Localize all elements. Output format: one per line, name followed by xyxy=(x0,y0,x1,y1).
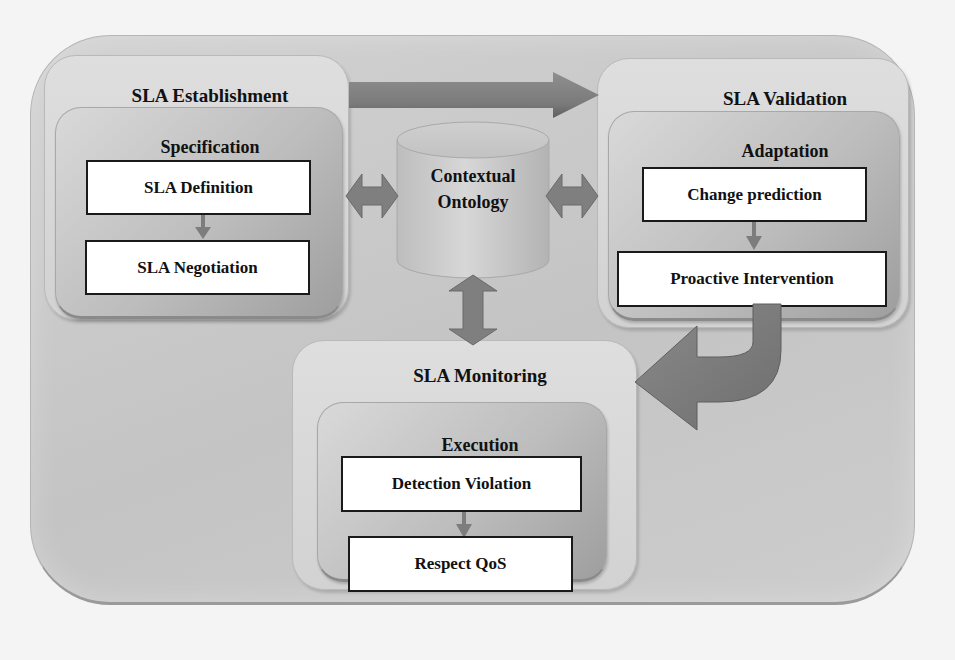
step-proactive-intervention: Proactive Intervention xyxy=(617,251,887,307)
bidirectional-arrow-ontology-validation xyxy=(546,172,598,220)
step-sla-negotiation: SLA Negotiation xyxy=(85,240,310,295)
bidirectional-arrow-ontology-establishment xyxy=(346,172,398,220)
cylinder-label-line1: Contextual xyxy=(395,163,551,189)
cylinder-label-line2: Ontology xyxy=(395,189,551,215)
arrow-establishment-to-validation xyxy=(349,70,599,120)
stage-title-monitoring: SLA Monitoring xyxy=(380,365,580,387)
stage-title-establishment: SLA Establishment xyxy=(100,85,320,107)
curved-arrow-validation-to-monitoring xyxy=(635,330,805,435)
step-sla-definition: SLA Definition xyxy=(86,160,311,215)
phase-title-execution: Execution xyxy=(410,435,550,456)
phase-title-specification: Specification xyxy=(140,137,280,158)
cylinder-label: Contextual Ontology xyxy=(395,163,551,215)
step-respect-qos: Respect QoS xyxy=(348,536,573,592)
step-detection-violation: Detection Violation xyxy=(341,456,582,512)
arrow-definition-to-negotiation xyxy=(192,215,214,241)
bidirectional-arrow-ontology-monitoring xyxy=(447,275,499,345)
stage-title-validation: SLA Validation xyxy=(680,88,890,110)
phase-title-adaptation: Adaptation xyxy=(695,141,875,162)
arrow-prediction-to-intervention xyxy=(743,222,765,252)
step-change-prediction: Change prediction xyxy=(642,167,867,222)
